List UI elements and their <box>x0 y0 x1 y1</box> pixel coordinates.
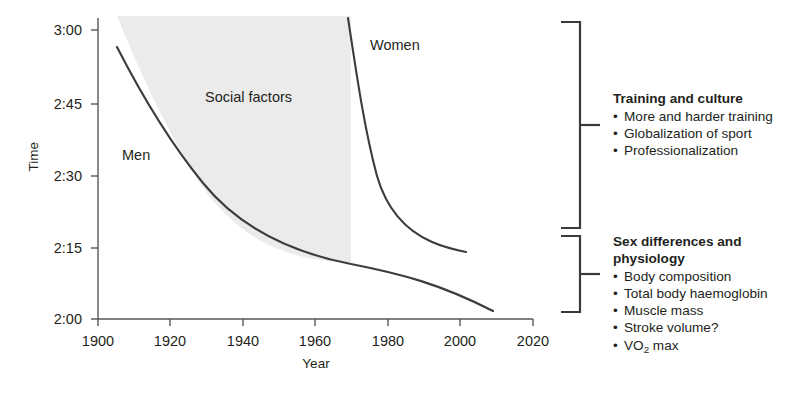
y-tick-label-300: 3:00 <box>30 23 82 38</box>
annotation-heading: Training and culture <box>613 91 798 107</box>
annotation-bullet-item: Muscle mass <box>613 302 798 319</box>
vo2-subscript: 2 <box>644 344 649 355</box>
annotation-bullet-item: Stroke volume? <box>613 319 798 336</box>
y-axis-title: Time <box>27 122 41 192</box>
x-axis-ticks <box>98 319 533 326</box>
y-tick-label-215: 2:15 <box>30 241 82 256</box>
y-axis-ticks <box>91 30 98 319</box>
annotation-sex-differences-and-physiology: Sex differences and physiology Body comp… <box>613 234 798 354</box>
x-tick-label-2020: 2020 <box>498 334 568 349</box>
annotation-bullet-item: Body composition <box>613 268 798 285</box>
women-curve <box>348 18 466 252</box>
annotation-training-and-culture: Training and culture More and harder tra… <box>613 91 798 159</box>
annotation-heading-line-2: physiology <box>613 251 798 267</box>
annotation-bullet-item: Globalization of sport <box>613 125 798 142</box>
annotation-heading-line-1: Sex differences and <box>613 234 798 250</box>
x-tick-label-1900: 1900 <box>63 334 133 349</box>
x-axis-title: Year <box>281 357 351 371</box>
social-factors-shaded-region <box>117 16 351 262</box>
annotation-bullet-item: Total body haemoglobin <box>613 285 798 302</box>
bracket-training-and-culture <box>561 22 600 228</box>
x-tick-label-1920: 1920 <box>135 334 205 349</box>
bracket-sex-differences-and-physiology <box>561 236 600 312</box>
vo2-suffix: max <box>649 338 678 353</box>
annotation-bullet-item-vo2: VO2 max <box>613 337 798 354</box>
vo2-prefix: VO <box>624 338 644 353</box>
y-tick-label-245: 2:45 <box>30 97 82 112</box>
y-tick-label-200: 2:00 <box>30 312 82 327</box>
annotation-bullet-list: More and harder training Globalization o… <box>613 108 798 159</box>
x-tick-label-2000: 2000 <box>425 334 495 349</box>
x-tick-label-1940: 1940 <box>208 334 278 349</box>
annotation-bullet-item: Professionalization <box>613 142 798 159</box>
annotation-bullet-item: More and harder training <box>613 108 798 125</box>
x-tick-label-1960: 1960 <box>280 334 350 349</box>
annotation-bullet-list: Body composition Total body haemoglobin … <box>613 268 798 354</box>
social-factors-region-label: Social factors <box>205 90 292 105</box>
chart-figure: 3:00 2:45 2:30 2:15 2:00 1900 1920 1940 … <box>0 0 798 396</box>
x-tick-label-1980: 1980 <box>353 334 423 349</box>
women-series-label: Women <box>370 38 420 53</box>
men-series-label: Men <box>122 148 150 163</box>
